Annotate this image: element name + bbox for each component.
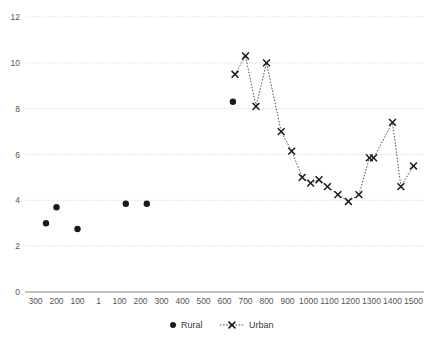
x-tick-label: 200 <box>133 296 147 306</box>
x-tick-label: 1500 <box>404 296 423 306</box>
x-tick-label: 900 <box>280 296 294 306</box>
urban-data-point <box>242 53 249 60</box>
x-tick-label: 700 <box>238 296 252 306</box>
urban-data-point <box>335 191 342 198</box>
x-tick-label: 1 <box>96 296 101 306</box>
urban-series-line <box>235 56 414 202</box>
y-axis-tick-labels: 024681012 <box>11 12 21 297</box>
x-tick-label: 1300 <box>362 296 381 306</box>
urban-data-point <box>307 180 314 187</box>
legend-rural-marker <box>170 322 176 328</box>
x-tick-label: 200 <box>49 296 63 306</box>
y-tick-label: 12 <box>11 12 21 22</box>
x-tick-label: 1400 <box>383 296 402 306</box>
x-axis-tick-labels: 3002001001100200300400500600700800900100… <box>28 296 423 306</box>
rural-data-point <box>230 99 236 105</box>
urban-data-point <box>345 198 352 205</box>
chart-container: 024681012 300200100110020030040050060070… <box>0 0 433 338</box>
rural-data-point <box>123 201 129 207</box>
y-tick-label: 8 <box>15 104 20 114</box>
x-tick-label: 600 <box>217 296 231 306</box>
x-tick-label: 300 <box>28 296 42 306</box>
rural-series-markers <box>43 99 236 233</box>
x-tick-label: 500 <box>196 296 210 306</box>
urban-data-point <box>356 191 363 198</box>
urban-data-point <box>324 183 331 190</box>
legend-urban-label: Urban <box>249 320 274 330</box>
x-tick-label: 100 <box>70 296 84 306</box>
x-tick-label: 400 <box>175 296 189 306</box>
y-tick-label: 4 <box>15 195 20 205</box>
urban-data-point <box>288 148 295 155</box>
x-tick-label: 300 <box>154 296 168 306</box>
x-tick-label: 800 <box>259 296 273 306</box>
rural-data-point <box>144 201 150 207</box>
y-tick-label: 6 <box>15 150 20 160</box>
rural-data-point <box>74 226 80 232</box>
y-tick-label: 0 <box>15 287 20 297</box>
gridlines-group <box>25 17 424 246</box>
urban-dotted-line <box>235 56 414 202</box>
urban-data-point <box>316 176 323 183</box>
urban-data-point <box>398 183 405 190</box>
urban-data-point <box>278 128 285 135</box>
legend-rural-label: Rural <box>181 320 203 330</box>
rural-data-point <box>53 204 59 210</box>
urban-data-point <box>410 163 417 170</box>
y-tick-label: 2 <box>15 241 20 251</box>
scatter-chart: 024681012 300200100110020030040050060070… <box>0 0 433 338</box>
x-tick-label: 100 <box>112 296 126 306</box>
x-tick-label: 1000 <box>299 296 318 306</box>
urban-data-point <box>299 174 306 181</box>
chart-legend: RuralUrban <box>170 320 274 330</box>
y-tick-label: 10 <box>11 58 21 68</box>
urban-data-point <box>232 71 239 78</box>
x-tick-label: 1100 <box>320 296 339 306</box>
x-tick-label: 1200 <box>341 296 360 306</box>
rural-data-point <box>43 220 49 226</box>
urban-data-point <box>370 155 377 162</box>
